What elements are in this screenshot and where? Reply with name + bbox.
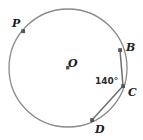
chord-cd	[92, 86, 123, 120]
chord-bc	[120, 50, 123, 86]
point-label-o: O	[68, 58, 78, 69]
point-marker-d	[90, 118, 94, 122]
point-label-d: D	[95, 124, 105, 135]
point-marker-c	[121, 84, 125, 88]
point-label-p: P	[12, 18, 20, 29]
point-label-b: B	[126, 42, 135, 53]
point-marker-b	[118, 48, 122, 52]
angle-label-bcd: 140°	[95, 77, 118, 86]
diagram-canvas	[0, 0, 143, 140]
point-label-c: C	[128, 87, 137, 98]
point-marker-p	[21, 29, 25, 33]
circle-geometry-diagram: P O B C D 140°	[0, 0, 143, 140]
